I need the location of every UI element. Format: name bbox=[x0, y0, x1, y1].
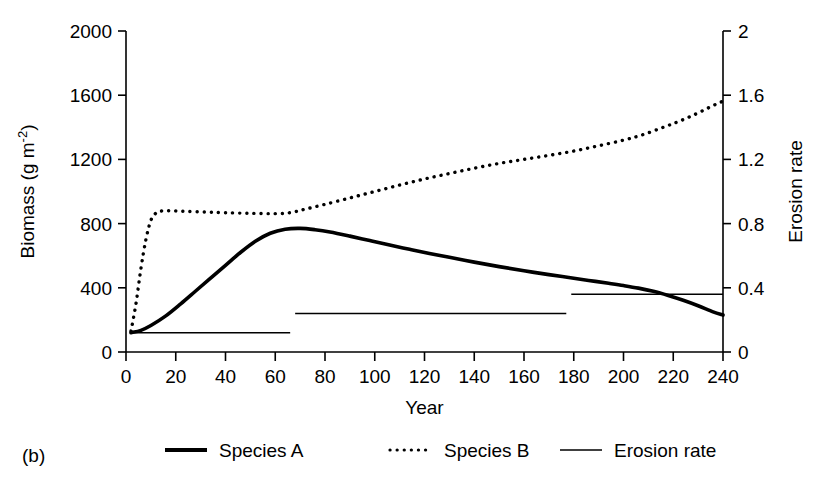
x-tick-label: 0 bbox=[121, 366, 132, 387]
left-y-tick-label: 2000 bbox=[70, 21, 112, 42]
x-axis-title: Year bbox=[405, 397, 444, 418]
legend-item-erosion-rate[interactable]: Erosion rate bbox=[560, 440, 716, 461]
x-tick-label: 160 bbox=[508, 366, 540, 387]
legend-item-species-a[interactable]: Species A bbox=[165, 440, 304, 461]
x-tick-label: 200 bbox=[608, 366, 640, 387]
left-y-tick-label: 1200 bbox=[70, 149, 112, 170]
right-axis-title: Erosion rate bbox=[785, 140, 806, 242]
x-tick-label: 60 bbox=[265, 366, 286, 387]
left-y-tick-label: 0 bbox=[101, 342, 112, 363]
series-species-a bbox=[131, 228, 723, 332]
series-group bbox=[131, 101, 723, 332]
series-species-b bbox=[131, 101, 723, 331]
right-y-tick-label: 1.2 bbox=[738, 149, 764, 170]
x-tick-label: 20 bbox=[165, 366, 186, 387]
x-tick-label: 180 bbox=[558, 366, 590, 387]
left-y-axis-ticks: 0400800120016002000 bbox=[70, 21, 126, 363]
x-tick-label: 40 bbox=[215, 366, 236, 387]
left-axis-title-exponent: -2 bbox=[15, 131, 30, 143]
legend: Species ASpecies BErosion rate bbox=[165, 440, 716, 461]
axes-group bbox=[126, 31, 723, 352]
right-y-tick-label: 1.6 bbox=[738, 85, 764, 106]
left-y-tick-label: 1600 bbox=[70, 85, 112, 106]
left-y-tick-label: 800 bbox=[80, 214, 112, 235]
x-axis-ticks: 020406080100120140160180200220240 bbox=[121, 352, 739, 387]
panel-label-b: (b) bbox=[22, 445, 45, 466]
series-erosion-rate bbox=[131, 294, 723, 333]
legend-label-text: Species A bbox=[219, 440, 304, 461]
legend-label-text: Erosion rate bbox=[614, 440, 716, 461]
x-tick-label: 140 bbox=[458, 366, 490, 387]
right-y-axis-ticks: 00.40.81.21.62 bbox=[723, 21, 765, 363]
x-tick-label: 220 bbox=[657, 366, 689, 387]
x-tick-label: 100 bbox=[359, 366, 391, 387]
right-y-tick-label: 0.8 bbox=[738, 214, 764, 235]
right-y-tick-label: 0 bbox=[738, 342, 749, 363]
legend-label-text: Species B bbox=[444, 440, 530, 461]
left-y-tick-label: 400 bbox=[80, 278, 112, 299]
x-tick-label: 120 bbox=[409, 366, 441, 387]
x-tick-label: 80 bbox=[314, 366, 335, 387]
x-tick-label: 240 bbox=[707, 366, 739, 387]
right-y-tick-label: 2 bbox=[738, 21, 749, 42]
figure-panel-b: 040080012001600200000.40.81.21.620204060… bbox=[0, 0, 829, 500]
left-axis-title-tail: ) bbox=[17, 124, 38, 130]
legend-item-species-b[interactable]: Species B bbox=[390, 440, 530, 461]
left-axis-title: Biomass (g m-2) bbox=[15, 124, 38, 258]
right-y-tick-label: 0.4 bbox=[738, 278, 765, 299]
biomass-erosion-chart: 040080012001600200000.40.81.21.620204060… bbox=[0, 0, 829, 500]
